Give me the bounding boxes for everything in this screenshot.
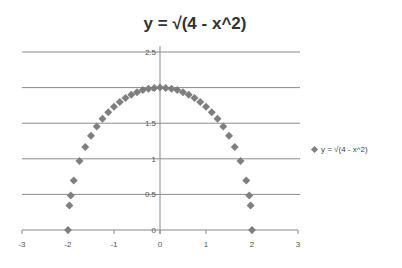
data-point-marker	[245, 191, 253, 199]
legend: y = √(4 - x^2)	[312, 145, 368, 154]
gridlines	[22, 52, 300, 194]
data-point-marker	[168, 85, 176, 93]
data-point-marker	[225, 132, 233, 140]
x-tick-label: 0	[158, 240, 163, 249]
data-point-marker	[214, 115, 222, 123]
data-point-marker	[110, 103, 118, 111]
x-tick-label: 3	[296, 240, 301, 249]
y-tick-label: 1	[152, 155, 157, 164]
data-point-marker	[219, 123, 227, 131]
data-point-marker	[116, 98, 124, 106]
legend-label: y = √(4 - x^2)	[321, 145, 368, 154]
x-tick-label: -2	[64, 240, 72, 249]
x-tick-label: 1	[204, 240, 209, 249]
x-tick-label: -3	[18, 240, 26, 249]
data-point-marker	[93, 123, 101, 131]
y-tick-label: 0.5	[145, 190, 157, 199]
axes	[22, 46, 298, 234]
data-point-marker	[196, 98, 204, 106]
data-point-marker	[248, 226, 256, 234]
y-tick-label: 2.5	[145, 48, 157, 57]
scatter-plot-area: 00.511.522.5-3-2-10123	[0, 0, 402, 268]
data-point-marker	[202, 103, 210, 111]
data-point-marker	[247, 201, 255, 209]
data-point-marker	[208, 108, 216, 116]
data-point-marker	[76, 157, 84, 165]
data-point-marker	[70, 176, 78, 184]
y-tick-label: 1.5	[145, 119, 157, 128]
data-point-marker	[242, 176, 250, 184]
x-tick-label: -1	[110, 240, 118, 249]
data-point-marker	[67, 191, 75, 199]
data-point-marker	[64, 226, 72, 234]
y-tick-label: 0	[152, 226, 157, 235]
data-point-marker	[87, 132, 95, 140]
data-point-marker	[81, 143, 89, 151]
data-point-marker	[65, 201, 73, 209]
x-tick-label: 2	[250, 240, 255, 249]
data-point-marker	[237, 157, 245, 165]
data-point-marker	[231, 143, 239, 151]
data-point-marker	[99, 115, 107, 123]
diamond-marker-icon	[311, 146, 318, 153]
data-point-marker	[104, 108, 112, 116]
